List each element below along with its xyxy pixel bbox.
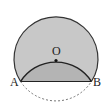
label-a: A <box>10 76 19 88</box>
diagram-canvas: O A B <box>0 0 110 107</box>
label-b: B <box>93 76 101 88</box>
label-o: O <box>52 45 61 57</box>
circle-lower-arc-dashed <box>21 82 92 101</box>
center-point-o <box>54 59 57 62</box>
